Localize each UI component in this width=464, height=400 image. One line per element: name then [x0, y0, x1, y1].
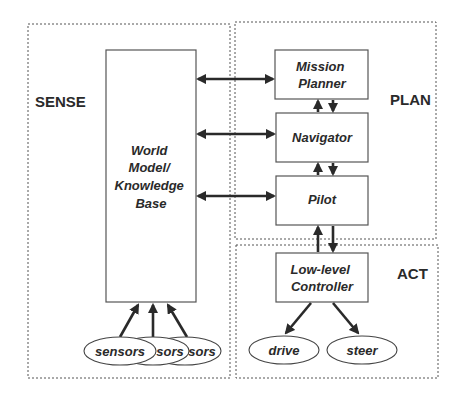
arrow-llc-to-drive: [286, 303, 311, 333]
sense-label: SENSE: [35, 93, 86, 110]
sensor-label-1: sensors: [95, 344, 145, 359]
navigator-label: Navigator: [292, 130, 353, 145]
low-level-controller-box: [276, 253, 368, 302]
arrow-sensor3-to-wm: [168, 305, 187, 337]
arrow-sensor1-to-wm: [120, 305, 138, 337]
world-model-box: [106, 50, 196, 302]
sensor-label-3: sors: [188, 344, 215, 359]
mission-planner-box: [275, 50, 368, 99]
architecture-diagram: SENSE PLAN ACT World Model/ Knowledge Ba…: [0, 0, 464, 400]
sensor-label-2: sors: [156, 344, 183, 359]
arrow-llc-to-steer: [333, 303, 358, 333]
act-label: ACT: [397, 265, 428, 282]
plan-label: PLAN: [390, 91, 431, 108]
steer-label: steer: [346, 343, 378, 358]
drive-label: drive: [268, 343, 299, 358]
pilot-label: Pilot: [308, 192, 337, 207]
